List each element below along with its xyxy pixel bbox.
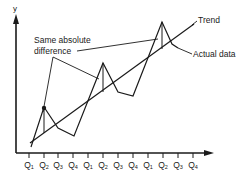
x-tick-label: Q3 <box>53 160 63 170</box>
same-diff-label-line2: difference <box>34 46 71 56</box>
x-tick-label: Q4 <box>128 160 138 170</box>
y-axis-arrow-icon <box>13 14 19 24</box>
x-tick-label: Q2 <box>39 160 49 170</box>
x-tick-label: Q4 <box>68 160 78 170</box>
actual-data-leader <box>178 48 192 54</box>
x-axis-arrow-icon <box>204 150 214 156</box>
same-diff-leader-1 <box>43 57 53 112</box>
x-tick-label: Q1 <box>143 160 153 170</box>
actual-data-label: Actual data <box>193 49 236 59</box>
x-tick-label: Q2 <box>158 160 168 170</box>
same-diff-label-line1: Same absolute <box>34 35 91 45</box>
same-diff-leader-2 <box>53 57 99 79</box>
y-axis-label: y <box>13 4 17 14</box>
x-tick-label: Q4 <box>188 160 198 170</box>
trend-leader <box>192 21 197 25</box>
x-tick-label: Q2 <box>98 160 108 170</box>
x-tick-label: Q3 <box>173 160 183 170</box>
x-tick-label: Q1 <box>83 160 93 170</box>
chart-canvas <box>0 0 249 179</box>
trend-label: Trend <box>198 15 220 25</box>
x-tick-label: Q1 <box>24 160 34 170</box>
x-tick-label: Q3 <box>113 160 123 170</box>
